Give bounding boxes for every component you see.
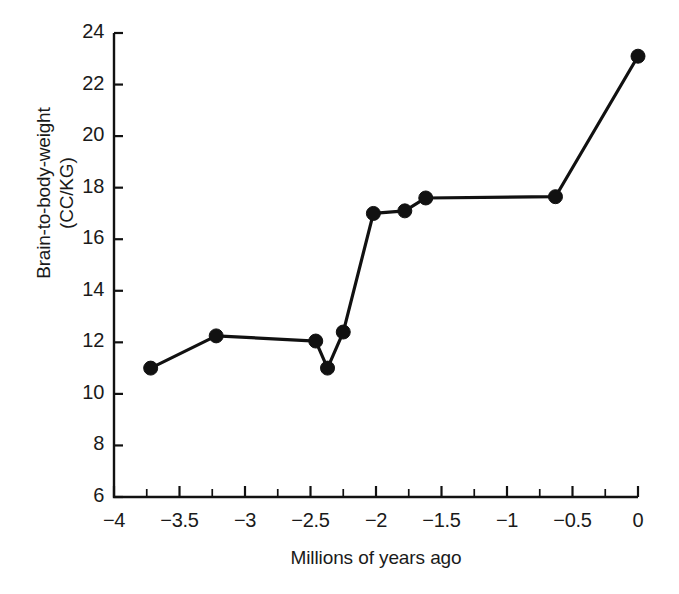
y-tick-label: 12 bbox=[60, 329, 104, 352]
axis-ticks bbox=[114, 33, 638, 497]
data-point-marker bbox=[321, 361, 335, 375]
y-tick-label: 16 bbox=[60, 226, 104, 249]
data-point-marker bbox=[398, 204, 412, 218]
y-tick-label: 20 bbox=[60, 123, 104, 146]
data-point-marker bbox=[548, 190, 562, 204]
data-point-marker bbox=[631, 49, 645, 63]
y-tick-label: 18 bbox=[60, 175, 104, 198]
data-point-marker bbox=[144, 361, 158, 375]
y-tick-label: 10 bbox=[60, 381, 104, 404]
x-tick-label: 0 bbox=[598, 509, 678, 532]
y-tick-label: 14 bbox=[60, 278, 104, 301]
data-point-marker bbox=[366, 206, 380, 220]
chart-figure: Brain-to-body-weight(CC/KG) Millions of … bbox=[0, 0, 679, 594]
y-axis-title-line1: Brain-to-body-weight bbox=[33, 108, 54, 279]
data-point-marker bbox=[209, 329, 223, 343]
y-tick-label: 22 bbox=[60, 72, 104, 95]
y-tick-label: 6 bbox=[60, 484, 104, 507]
data-point-marker bbox=[419, 191, 433, 205]
axes bbox=[114, 33, 638, 497]
y-tick-label: 24 bbox=[60, 20, 104, 43]
y-tick-label: 8 bbox=[60, 432, 104, 455]
data-point-marker bbox=[309, 334, 323, 348]
data-point-marker bbox=[336, 325, 350, 339]
x-axis-title: Millions of years ago bbox=[114, 547, 638, 569]
data-series-line bbox=[151, 56, 638, 368]
